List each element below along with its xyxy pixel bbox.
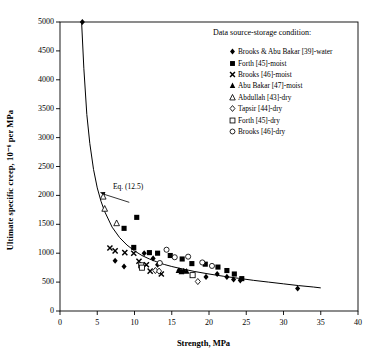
x-axis-tick-label: 25 xyxy=(231,319,261,327)
legend-marker-icon xyxy=(227,80,238,91)
legend-entry-label: Forth [45]-dry xyxy=(238,116,280,125)
data-point xyxy=(131,245,136,250)
legend-entry-label: Brooks [46]-dry xyxy=(238,127,285,136)
legend-entry: Brooks [46]-moist xyxy=(213,69,363,80)
legend: Data source-storage condition: Brooks & … xyxy=(213,28,363,137)
y-axis-tick-label: 2500 xyxy=(20,163,54,171)
legend-entry-label: Tapsir [44]-dry xyxy=(238,104,282,113)
data-point xyxy=(80,19,85,25)
data-point xyxy=(195,278,200,284)
legend-entry: Brooks & Abu Bakar [39]-water xyxy=(213,46,363,57)
data-point xyxy=(113,248,118,253)
legend-marker-icon xyxy=(227,69,238,80)
data-point xyxy=(172,255,177,260)
y-axis-tick-label: 2000 xyxy=(20,191,54,199)
data-point xyxy=(107,245,112,250)
x-axis-tick-label: 10 xyxy=(120,319,150,327)
data-point xyxy=(180,256,185,261)
y-axis-tick-label: 1000 xyxy=(20,249,54,257)
legend-entry-label: Brooks & Abu Bakar [39]-water xyxy=(238,47,332,56)
data-point xyxy=(113,258,118,264)
data-point xyxy=(215,271,220,277)
data-point xyxy=(122,226,127,231)
equation-annotation-text: Eq. (12.5) xyxy=(113,182,143,191)
data-point xyxy=(295,285,300,291)
y-axis-tick-label: 5000 xyxy=(20,18,54,26)
creep-strength-scatter-chart: Ultimate specific creep, 10⁻⁶ per MPa St… xyxy=(0,0,379,360)
x-axis-tick-label: 0 xyxy=(45,319,75,327)
y-axis-tick-label: 3000 xyxy=(20,134,54,142)
x-axis-tick-label: 35 xyxy=(306,319,336,327)
legend-entry: Abu Bakar [47]-moist xyxy=(213,80,363,91)
x-axis-tick-label: 40 xyxy=(343,319,373,327)
data-point xyxy=(224,268,229,273)
data-point xyxy=(122,250,127,255)
y-axis-title-text: Ultimate specific creep, 10⁻⁶ per MPa xyxy=(5,110,15,250)
data-point xyxy=(131,251,136,256)
data-point xyxy=(190,273,195,278)
data-point xyxy=(155,251,160,256)
y-axis-tick-label: 0 xyxy=(20,307,54,315)
data-point xyxy=(148,269,153,274)
data-point xyxy=(189,261,194,266)
legend-entry: Forth [45]-moist xyxy=(213,57,363,68)
data-point xyxy=(147,250,152,255)
legend-entry: Abdullah [43]-dry xyxy=(213,92,363,103)
data-point xyxy=(164,247,169,252)
legend-entry: Brooks [46]-dry xyxy=(213,126,363,137)
data-point xyxy=(151,255,156,261)
legend-marker-icon xyxy=(227,115,238,126)
y-axis-tick-label: 3500 xyxy=(20,105,54,113)
x-axis-tick-label: 5 xyxy=(82,319,112,327)
legend-marker-icon xyxy=(227,103,238,114)
data-point xyxy=(203,274,208,280)
legend-title: Data source-storage condition: xyxy=(213,28,363,37)
data-point xyxy=(224,274,229,280)
y-axis-title: Ultimate specific creep, 10⁻⁶ per MPa xyxy=(2,0,18,360)
y-axis-tick-label: 1500 xyxy=(20,220,54,228)
data-point xyxy=(232,271,237,276)
data-point xyxy=(157,260,162,265)
data-point xyxy=(209,263,214,268)
legend-marker-icon xyxy=(227,46,238,57)
y-axis-tick-label: 4000 xyxy=(20,76,54,84)
x-axis-tick-label: 15 xyxy=(157,319,187,327)
legend-entry-label: Forth [45]-moist xyxy=(238,59,286,68)
legend-marker-icon xyxy=(227,126,238,137)
legend-entry: Forth [45]-dry xyxy=(213,114,363,125)
x-axis-title: Strength, MPa xyxy=(0,338,379,348)
y-axis-tick-label: 4500 xyxy=(20,47,54,55)
data-point xyxy=(114,220,120,226)
data-point xyxy=(139,265,144,270)
legend-entry-label: Abdullah [43]-dry xyxy=(238,93,291,102)
legend-entry-label: Abu Bakar [47]-moist xyxy=(238,81,302,90)
y-axis-tick-label: 500 xyxy=(20,278,54,286)
legend-marker-icon xyxy=(227,58,238,69)
equation-annotation-label: Eq. (12.5) xyxy=(113,182,143,191)
data-point xyxy=(239,276,244,281)
x-axis-tick-label: 30 xyxy=(269,319,299,327)
legend-marker-icon xyxy=(227,92,238,103)
x-axis-tick-label: 20 xyxy=(194,319,224,327)
data-point xyxy=(186,254,191,259)
legend-entries: Brooks & Abu Bakar [39]-waterForth [45]-… xyxy=(213,46,363,137)
data-point xyxy=(215,265,220,270)
data-point xyxy=(134,215,139,220)
legend-entry-label: Brooks [46]-moist xyxy=(238,70,292,79)
legend-entry: Tapsir [44]-dry xyxy=(213,103,363,114)
x-axis-title-text: Strength, MPa xyxy=(149,338,230,348)
data-point xyxy=(200,260,205,265)
data-point xyxy=(122,263,127,269)
equation-leader-line xyxy=(104,194,129,202)
